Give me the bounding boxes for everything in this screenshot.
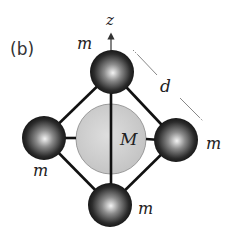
mass-label-right: m — [206, 134, 221, 153]
distance-label: d — [160, 76, 171, 96]
central-mass-label: M — [119, 129, 138, 149]
tetrahedral-mass-diagram: (b) z M d m m m m — [0, 0, 239, 245]
panel-label: (b) — [10, 39, 34, 59]
outer-sphere-bottom — [88, 183, 132, 227]
outer-sphere-left — [22, 116, 66, 160]
mass-label-bottom: m — [138, 199, 153, 218]
mass-label-top: m — [77, 34, 92, 53]
z-axis-label: z — [105, 11, 114, 29]
outer-sphere-right — [154, 118, 198, 162]
outer-sphere-top — [90, 50, 134, 94]
mass-label-left: m — [33, 161, 48, 180]
